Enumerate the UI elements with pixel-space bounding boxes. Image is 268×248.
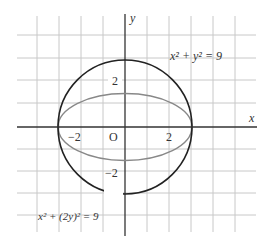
x-axis-label: x: [248, 111, 255, 125]
plot-svg: y x O −2 2 2 −2 x² + y² = 9 x² + (2y)² =…: [0, 0, 268, 248]
tick-label-y-neg: −2: [105, 166, 118, 180]
y-axis-label: y: [129, 11, 136, 25]
tick-label-y-pos: 2: [112, 74, 118, 88]
axes: [17, 14, 257, 236]
coordinate-plane-figure: y x O −2 2 2 −2 x² + y² = 9 x² + (2y)² =…: [0, 0, 268, 248]
tick-label-x-pos: 2: [166, 130, 172, 144]
origin-label: O: [109, 130, 118, 144]
ellipse-equation: x² + (2y)² = 9: [37, 210, 99, 223]
circle-equation: x² + y² = 9: [169, 49, 222, 63]
tick-label-x-neg: −2: [68, 130, 81, 144]
